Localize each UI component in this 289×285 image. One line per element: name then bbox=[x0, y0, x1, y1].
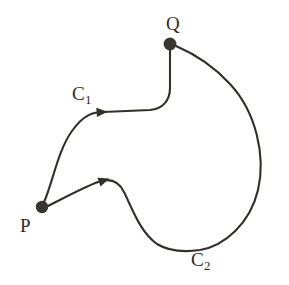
curve-label-c1: C1 bbox=[72, 84, 91, 103]
curve-label-c1-subscript: 1 bbox=[85, 92, 91, 107]
curve-diagram-figure: Q P C1 C2 bbox=[0, 0, 289, 285]
curve-label-c1-base: C bbox=[72, 83, 85, 104]
curve-label-c2-subscript: 2 bbox=[204, 258, 210, 273]
point-label-p: P bbox=[20, 216, 31, 235]
point-label-q: Q bbox=[166, 14, 180, 33]
direction-arrow-c2 bbox=[97, 178, 109, 187]
curve-canvas bbox=[0, 0, 289, 285]
curve-label-c2: C2 bbox=[191, 250, 210, 269]
curve-label-c2-base: C bbox=[191, 249, 204, 270]
curve-path-c2 bbox=[48, 46, 261, 251]
endpoint-dot-p bbox=[36, 201, 48, 213]
endpoint-dot-q bbox=[164, 38, 177, 51]
direction-arrow-c1 bbox=[96, 108, 107, 117]
